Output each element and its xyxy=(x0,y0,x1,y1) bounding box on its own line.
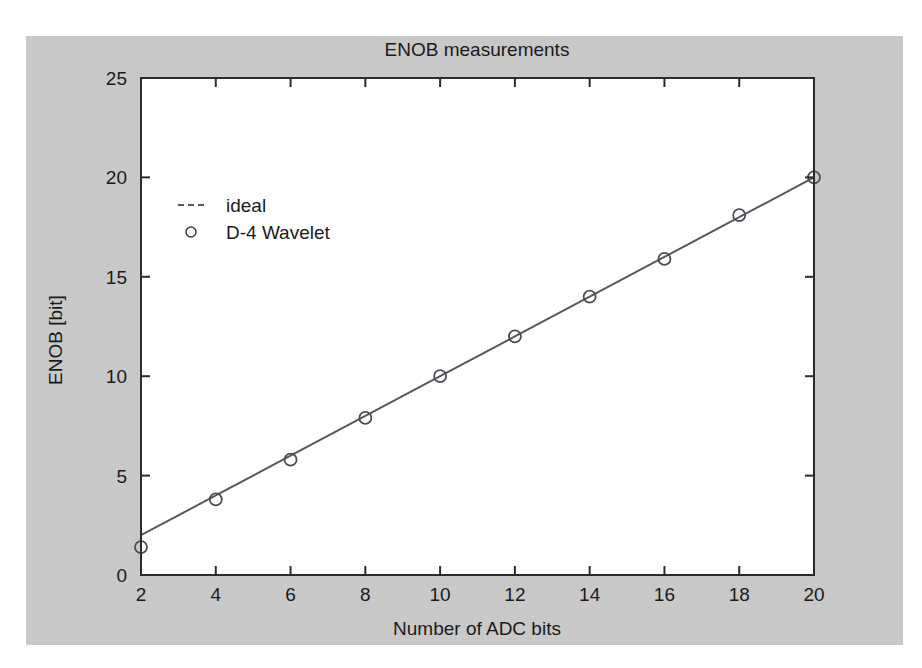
x-axis-title: Number of ADC bits xyxy=(393,618,561,639)
x-tick-label-12: 12 xyxy=(504,584,525,605)
x-tick-label-10: 10 xyxy=(430,584,451,605)
figure-page: 2468101214161820 0510152025 ENOB measure… xyxy=(0,0,922,668)
legend-label-ideal: ideal xyxy=(226,195,266,216)
plot-area-background xyxy=(141,78,814,575)
x-tick-label-8: 8 xyxy=(360,584,371,605)
chart-title: ENOB measurements xyxy=(385,39,570,60)
x-tick-label-16: 16 xyxy=(654,584,675,605)
y-axis-tick-labels: 0510152025 xyxy=(106,68,127,586)
y-tick-label-20: 20 xyxy=(106,167,127,188)
legend-label-d4-wavelet: D-4 Wavelet xyxy=(226,222,331,243)
x-axis-tick-labels: 2468101214161820 xyxy=(136,584,825,605)
y-tick-label-0: 0 xyxy=(116,565,127,586)
x-tick-label-2: 2 xyxy=(136,584,147,605)
x-tick-label-4: 4 xyxy=(210,584,221,605)
y-tick-label-25: 25 xyxy=(106,68,127,89)
x-tick-label-18: 18 xyxy=(729,584,750,605)
y-tick-label-10: 10 xyxy=(106,366,127,387)
y-axis-title: ENOB [bit] xyxy=(45,295,66,385)
y-tick-label-5: 5 xyxy=(116,466,127,487)
y-tick-label-15: 15 xyxy=(106,267,127,288)
x-tick-label-6: 6 xyxy=(285,584,296,605)
x-tick-label-14: 14 xyxy=(579,584,601,605)
enob-measurements-chart: 2468101214161820 0510152025 ENOB measure… xyxy=(0,0,922,668)
x-tick-label-20: 20 xyxy=(803,584,824,605)
